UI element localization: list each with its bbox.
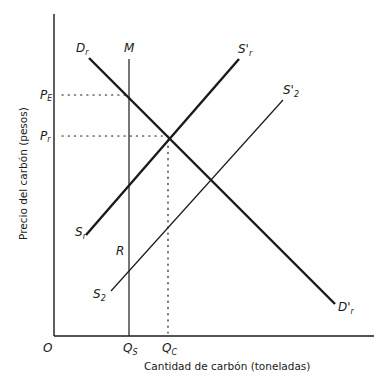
supply-curve-1 bbox=[86, 59, 239, 235]
price-pr-label: Pr bbox=[40, 129, 51, 144]
origin-label: O bbox=[43, 341, 52, 355]
supply-curve-2 bbox=[111, 100, 283, 291]
x-axis-title: Cantidad de carbón (toneladas) bbox=[144, 360, 310, 372]
supply-2-start-label: S2 bbox=[93, 287, 106, 303]
supply-1-end-label: S'r bbox=[238, 42, 253, 58]
demand-start-label: Dr bbox=[76, 41, 89, 57]
y-axis-title: Precio del carbón (pesos) bbox=[17, 107, 29, 240]
carbon-market-diagram: Dr M S'r S'2 Sr R S2 D'r PE Pr O QS QC C… bbox=[0, 0, 389, 389]
region-label: R bbox=[116, 244, 124, 258]
supply-1-start-label: Sr bbox=[75, 225, 87, 241]
quantity-qs-label: QS bbox=[123, 341, 138, 357]
supply-2-end-label: S'2 bbox=[283, 83, 299, 99]
quantity-qc-label: QC bbox=[162, 341, 177, 357]
demand-end-label: D'r bbox=[338, 300, 355, 316]
m-label: M bbox=[124, 41, 135, 55]
price-pe-label: PE bbox=[40, 88, 53, 103]
